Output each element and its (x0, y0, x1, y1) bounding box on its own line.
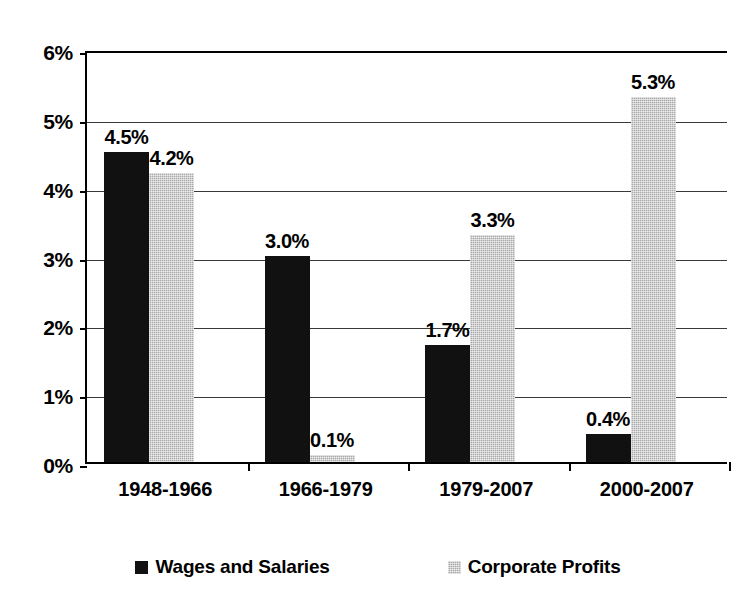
y-axis-tick (80, 397, 87, 399)
x-axis-tick (729, 462, 731, 471)
bar-value-label: 1.7% (426, 319, 470, 342)
y-axis-tick-label: 5% (43, 110, 73, 134)
bar-value-label: 4.2% (150, 147, 194, 170)
x-axis-tick (569, 462, 571, 471)
y-axis-tick-label: 6% (43, 41, 73, 65)
bar-value-label: 3.3% (471, 209, 515, 232)
bar-wages: 4.5% (104, 152, 149, 462)
y-axis-tick (80, 191, 87, 193)
bar-wages: 3.0% (265, 256, 310, 463)
legend-item-wages[interactable]: Wages and Salaries (135, 556, 329, 578)
bar-profits: 3.3% (470, 235, 515, 462)
x-axis-tick (248, 462, 250, 471)
y-axis-tick (80, 260, 87, 262)
y-axis-tick-label: 1% (43, 385, 73, 409)
y-axis-tick-label: 4% (43, 179, 73, 203)
y-axis-tick-label: 0% (43, 454, 73, 478)
legend-item-label: Wages and Salaries (155, 556, 329, 578)
plot-area: 0%1%2%3%4%5%6% 4.5%4.2%3.0%0.1%1.7%3.3%0… (85, 51, 727, 464)
chart-legend: Wages and SalariesCorporate Profits (0, 556, 756, 578)
legend-item-profits[interactable]: Corporate Profits (448, 556, 621, 578)
bar-value-label: 0.4% (586, 408, 630, 431)
y-axis-tick (80, 122, 87, 124)
wages-swatch-icon (135, 561, 148, 574)
bar-profits: 0.1% (310, 455, 355, 462)
x-axis-tick (408, 462, 410, 471)
bar-chart: 0%1%2%3%4%5%6% 4.5%4.2%3.0%0.1%1.7%3.3%0… (0, 0, 756, 595)
x-axis-category-label: 1979-2007 (406, 478, 567, 501)
bar-value-label: 3.0% (265, 230, 309, 253)
bar-profits: 4.2% (149, 173, 194, 462)
x-axis-category-label: 2000-2007 (567, 478, 728, 501)
bar-profits: 5.3% (631, 97, 676, 462)
legend-item-label: Corporate Profits (468, 556, 621, 578)
bar-value-label: 4.5% (105, 126, 149, 149)
bar-value-label: 0.1% (310, 429, 354, 452)
y-axis-tick (80, 53, 87, 55)
y-axis-tick-label: 3% (43, 248, 73, 272)
y-axis-tick-label: 2% (43, 316, 73, 340)
chart-title (0, 0, 756, 10)
x-axis-category-label: 1948-1966 (85, 478, 246, 501)
bar-value-label: 5.3% (631, 71, 675, 94)
x-axis-category-label: 1966-1979 (246, 478, 407, 501)
bar-wages: 1.7% (425, 345, 470, 462)
profits-swatch-icon (448, 561, 461, 574)
bar-wages: 0.4% (586, 434, 631, 462)
y-axis-tick (80, 466, 87, 468)
y-axis-tick (80, 328, 87, 330)
